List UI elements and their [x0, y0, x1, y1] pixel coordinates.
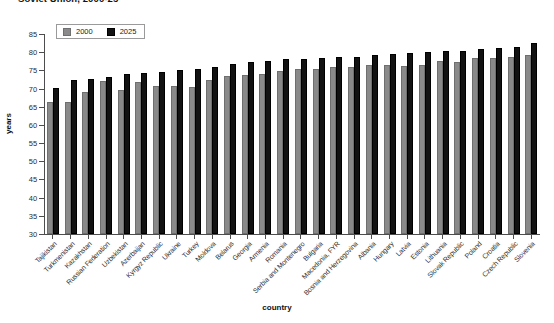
- x-axis-title: country: [0, 303, 554, 312]
- chart-legend[interactable]: 20002025: [56, 24, 145, 39]
- y-axis-tick-label: 45: [29, 175, 37, 184]
- x-tick-cell: [62, 234, 80, 239]
- x-tick-cell: [186, 234, 204, 239]
- x-tick-cell: [79, 234, 97, 239]
- x-axis-tick: [230, 234, 231, 239]
- bar-2025[interactable]: [177, 70, 183, 234]
- bar-group: [115, 34, 133, 234]
- bar-group: [452, 34, 470, 234]
- bar-2025[interactable]: [443, 51, 449, 234]
- bar-group: [469, 34, 487, 234]
- bar-2025[interactable]: [425, 52, 431, 234]
- bar-2025[interactable]: [248, 62, 254, 234]
- x-tick-cell: [44, 234, 62, 239]
- bar-2025[interactable]: [195, 69, 201, 234]
- bar-group: [79, 34, 97, 234]
- y-axis-tick-label: 65: [29, 102, 37, 111]
- bar-2025[interactable]: [159, 72, 165, 234]
- y-axis-tick-label: 35: [29, 211, 37, 220]
- x-tick-cell: [292, 234, 310, 239]
- x-tick-cell: [168, 234, 186, 239]
- x-axis-tick: [265, 234, 266, 239]
- bar-2025[interactable]: [531, 43, 537, 234]
- bar-group: [310, 34, 328, 234]
- x-axis-tick: [389, 234, 390, 239]
- bar-2025[interactable]: [106, 77, 112, 234]
- legend-swatch-icon: [107, 28, 115, 36]
- x-axis-tick: [247, 234, 248, 239]
- x-tick-cell: [310, 234, 328, 239]
- x-axis-tick: [123, 234, 124, 239]
- bar-2025[interactable]: [124, 74, 130, 234]
- bar-2025[interactable]: [336, 57, 342, 234]
- legend-label: 2000: [76, 27, 93, 36]
- bar-2025[interactable]: [141, 73, 147, 234]
- y-axis-tick-label: 55: [29, 139, 37, 148]
- x-tick-cell: [398, 234, 416, 239]
- bar-group: [150, 34, 168, 234]
- bar-group: [168, 34, 186, 234]
- x-axis-tick: [88, 234, 89, 239]
- bar-group: [292, 34, 310, 234]
- x-axis-tick: [141, 234, 142, 239]
- x-axis-tick: [106, 234, 107, 239]
- y-axis-tick-label: 75: [29, 66, 37, 75]
- chart-figure: Soviet Union, 2000-25 years 303540455055…: [0, 0, 554, 323]
- x-tick-cell: [239, 234, 257, 239]
- bar-2025[interactable]: [354, 57, 360, 234]
- bar-group: [505, 34, 523, 234]
- x-tick-cell: [345, 234, 363, 239]
- bar-2025[interactable]: [230, 64, 236, 234]
- x-axis-tick: [283, 234, 284, 239]
- x-tick-cell: [133, 234, 151, 239]
- x-axis-tick: [354, 234, 355, 239]
- x-axis-tick: [159, 234, 160, 239]
- bar-2025[interactable]: [53, 88, 59, 234]
- bar-2025[interactable]: [372, 55, 378, 234]
- bar-2025[interactable]: [319, 58, 325, 234]
- x-tick-cell: [469, 234, 487, 239]
- bar-group: [133, 34, 151, 234]
- bar-group: [239, 34, 257, 234]
- x-tick-cell: [328, 234, 346, 239]
- x-tick-cell: [505, 234, 523, 239]
- y-axis-tick-label: 70: [29, 84, 37, 93]
- bar-2025[interactable]: [460, 51, 466, 234]
- bar-2025[interactable]: [478, 49, 484, 234]
- bar-2025[interactable]: [283, 59, 289, 234]
- bar-2025[interactable]: [71, 80, 77, 234]
- y-axis-title: years: [4, 113, 13, 134]
- x-axis-tick: [300, 234, 301, 239]
- chart-title: Soviet Union, 2000-25: [18, 0, 118, 4]
- x-axis-tick: [318, 234, 319, 239]
- bar-2025[interactable]: [390, 54, 396, 234]
- bar-group: [381, 34, 399, 234]
- x-tick-cell: [150, 234, 168, 239]
- bar-2025[interactable]: [496, 48, 502, 234]
- bar-group: [416, 34, 434, 234]
- bar-2025[interactable]: [514, 47, 520, 234]
- bar-group: [203, 34, 221, 234]
- x-tick-cell: [416, 234, 434, 239]
- bar-2025[interactable]: [407, 53, 413, 234]
- y-axis-tick-label: 85: [29, 30, 37, 39]
- bars-container: [44, 34, 540, 234]
- bar-group: [62, 34, 80, 234]
- bar-2025[interactable]: [265, 61, 271, 234]
- bar-group: [434, 34, 452, 234]
- plot-area: 303540455055606570758085 TajikistanTurkm…: [44, 34, 540, 235]
- legend-item-2025[interactable]: 2025: [107, 27, 137, 36]
- bar-group: [97, 34, 115, 234]
- legend-item-2000[interactable]: 2000: [63, 27, 93, 36]
- bar-2025[interactable]: [212, 67, 218, 234]
- bar-group: [363, 34, 381, 234]
- bar-2025[interactable]: [301, 59, 307, 234]
- bar-group: [186, 34, 204, 234]
- bar-2025[interactable]: [88, 79, 94, 234]
- x-axis-tick: [212, 234, 213, 239]
- bar-group: [44, 34, 62, 234]
- legend-label: 2025: [120, 27, 137, 36]
- x-axis-tick: [460, 234, 461, 239]
- y-axis-tick-label: 60: [29, 120, 37, 129]
- x-axis-tick: [424, 234, 425, 239]
